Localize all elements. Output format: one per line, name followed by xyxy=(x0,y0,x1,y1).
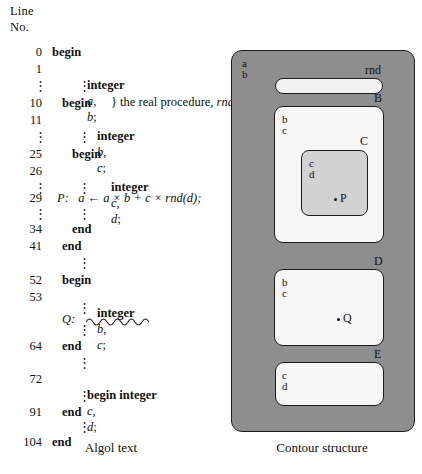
contour-label-E: E xyxy=(374,348,381,360)
contour-label-rnd: rnd xyxy=(365,64,381,76)
code-text: end xyxy=(62,404,81,420)
line-number: 26 xyxy=(0,163,42,179)
line-number: 34 xyxy=(0,221,42,237)
vertical-ellipsis-code xyxy=(78,419,91,435)
code-row: 0 begin xyxy=(0,44,222,60)
vertical-ellipsis-linenum xyxy=(34,206,47,222)
point-label-P: P xyxy=(340,191,347,205)
variable-b: b xyxy=(282,114,288,125)
outer-block-variables: a b xyxy=(242,58,248,79)
line-number: 0 xyxy=(0,44,42,60)
variable-c: c xyxy=(282,125,288,136)
code-row: 29 P: a ← a × b + c × rnd(d); xyxy=(0,190,222,206)
point-dot-icon xyxy=(334,198,337,201)
vertical-ellipsis-code xyxy=(78,129,91,145)
variable-c: c xyxy=(309,158,315,169)
variable-c: c xyxy=(282,370,288,381)
line-number: 10 xyxy=(0,95,42,111)
code-row: 25 begin xyxy=(0,146,222,162)
line-number: 41 xyxy=(0,238,42,254)
line-number: 91 xyxy=(0,404,42,420)
contour-label-C: C xyxy=(360,135,368,147)
line-no-header-line1: Line xyxy=(10,4,34,19)
code-row: 52 begin xyxy=(0,272,222,288)
vertical-ellipsis-code xyxy=(78,355,91,371)
algol-text-panel: Line No. 0 begin 1 integer a, b; } the r… xyxy=(0,0,222,474)
point-label-Q: Q xyxy=(343,311,352,325)
code-row xyxy=(0,355,222,371)
variable-c: c xyxy=(282,288,288,299)
code-text: begin xyxy=(62,272,91,288)
code-text: begin xyxy=(72,146,101,162)
line-number: 25 xyxy=(0,146,42,162)
line-number: 72 xyxy=(0,371,42,387)
code-text: end xyxy=(72,221,91,237)
code-row: 10 begin xyxy=(0,95,222,111)
vertical-ellipsis-code xyxy=(78,322,91,338)
code-row: 41 end xyxy=(0,238,222,254)
code-row xyxy=(0,419,222,435)
vertical-ellipsis-linenum xyxy=(34,78,47,94)
contour-label-B: B xyxy=(374,92,382,104)
line-no-header-line2: No. xyxy=(10,20,29,35)
code-text: end xyxy=(62,338,81,354)
code-row: } the real procedure, rnd xyxy=(0,78,222,94)
contour-structure-panel: a b rnd B b c C c d P D b c Q xyxy=(222,0,422,474)
code-row xyxy=(0,388,222,404)
figure-root: Line No. 0 begin 1 integer a, b; } the r… xyxy=(0,0,422,474)
line-number: 29 xyxy=(0,190,42,206)
code-row xyxy=(0,129,222,145)
code-row xyxy=(0,255,222,271)
code-text: end xyxy=(62,238,81,254)
c-block-variables: c d xyxy=(309,158,315,179)
execution-point-Q: Q xyxy=(337,312,352,324)
code-row xyxy=(0,206,222,222)
code-row: 91 end xyxy=(0,404,222,420)
d-block-variables: b c xyxy=(282,277,288,298)
contour-e-block xyxy=(275,362,384,406)
code-row: 1 integer a, b; xyxy=(0,61,222,77)
variable-d: d xyxy=(309,169,315,180)
point-dot-icon xyxy=(337,318,340,321)
code-row: 64 end xyxy=(0,338,222,354)
variable-b: b xyxy=(282,277,288,288)
variable-d: d xyxy=(282,381,288,392)
code-text-assignment: P: a ← a × b + c × rnd(d); xyxy=(57,190,201,206)
line-number: 1 xyxy=(0,61,42,77)
contour-rnd-block xyxy=(275,78,383,94)
code-text: begin xyxy=(52,44,81,60)
contour-d-block xyxy=(274,269,384,346)
b-block-variables: b c xyxy=(282,114,288,135)
line-number: 11 xyxy=(0,112,42,128)
line-number: 52 xyxy=(0,272,42,288)
execution-point-P: P xyxy=(334,192,347,204)
code-row xyxy=(0,322,222,338)
contour-label-D: D xyxy=(374,255,383,267)
vertical-ellipsis-code xyxy=(78,206,91,222)
code-row: 11 integer b, c; xyxy=(0,112,222,128)
caption-contour-structure: Contour structure xyxy=(222,440,422,456)
e-block-variables: c d xyxy=(282,370,288,391)
code-text: begin xyxy=(62,95,91,111)
vertical-ellipsis-code xyxy=(78,255,91,271)
vertical-ellipsis-linenum xyxy=(34,129,47,145)
variable-b: b xyxy=(242,69,248,80)
code-row: 34 end xyxy=(0,221,222,237)
code-row: 26 integer c, d; xyxy=(0,163,222,179)
code-row: 72 begin integer c, d; xyxy=(0,371,222,387)
variable-a: a xyxy=(242,58,248,69)
line-number: 64 xyxy=(0,338,42,354)
vertical-ellipsis-code xyxy=(78,388,91,404)
caption-algol-text: Algol text xyxy=(0,440,222,456)
